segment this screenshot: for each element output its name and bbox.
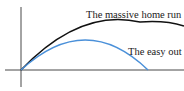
easy-out-label: The easy out bbox=[128, 47, 182, 58]
home-run-curve bbox=[21, 19, 184, 70]
trajectory-diagram: The massive home run The easy out bbox=[0, 0, 184, 91]
home-run-label: The massive home run bbox=[86, 10, 181, 21]
